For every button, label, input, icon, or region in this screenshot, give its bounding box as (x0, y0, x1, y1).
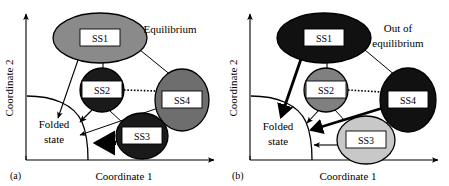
panel-label-b: (b) (232, 170, 244, 182)
folded-state-label-line2: state (44, 133, 64, 145)
x-axis-label: Coordinate 1 (95, 170, 152, 182)
panel-a: SS1 SS2 SS3 SS4 Equilibri (0, 0, 225, 186)
edge-ss2-to-folded-state (307, 110, 319, 123)
node-ss4[interactable]: SS4 (380, 68, 436, 132)
y-axis-label: Coordinate 2 (3, 59, 15, 116)
panel-a-canvas: SS1 SS2 SS3 SS4 Equilibri (0, 0, 225, 186)
folded-state-label-line1: Folded (263, 120, 294, 132)
edge-ss1-to-ss4 (365, 50, 396, 76)
node-ss4[interactable]: SS4 (155, 69, 209, 131)
panel-label-a: (a) (10, 170, 21, 182)
node-ss1[interactable]: SS1 (53, 13, 147, 63)
edge-ss2-to-ss3 (110, 111, 122, 122)
edge-ss2-to-ss4-dotted (348, 90, 382, 92)
y-axis-label: Coordinate 2 (227, 59, 239, 116)
node-ss1[interactable]: SS1 (277, 13, 371, 63)
panel-b: SS1 SS2 SS3 SS4 Out of equilibrium F (224, 0, 449, 186)
node-ss1-label: SS1 (92, 33, 108, 44)
node-ss2[interactable]: SS2 (304, 68, 348, 112)
folded-state-label-line2: state (268, 135, 288, 147)
node-ss2-label: SS2 (94, 85, 110, 96)
folded-state-label-line1: Folded (39, 118, 70, 130)
node-ss1-label: SS1 (316, 33, 332, 44)
annotation-out-of-equilibrium-line1: Out of (384, 22, 413, 34)
edge-ss2-to-ss4-dotted (124, 90, 157, 91)
node-ss3-label: SS3 (134, 131, 150, 142)
node-ss3[interactable]: SS3 (337, 116, 395, 164)
edge-ss1-to-folded-state (58, 60, 78, 118)
edge-ss1-to-folded-state-arrow (281, 59, 301, 117)
annotation-equilibrium: Equilibrium (143, 23, 197, 35)
panel-b-canvas: SS1 SS2 SS3 SS4 Out of equilibrium F (224, 0, 449, 186)
node-ss3-label: SS3 (358, 135, 374, 146)
node-ss3[interactable]: SS3 (116, 113, 168, 159)
edge-ss1-to-folded-state (281, 59, 301, 117)
edge-ss2-to-folded-state (80, 110, 92, 122)
figure-root: SS1 SS2 SS3 SS4 Equilibri (0, 0, 449, 186)
node-ss2-label: SS2 (318, 85, 334, 96)
edge-ss1-to-ss4 (140, 50, 172, 76)
node-ss2[interactable]: SS2 (80, 68, 124, 112)
x-axis-label: Coordinate 1 (319, 170, 376, 182)
node-ss4-label: SS4 (174, 95, 190, 106)
node-ss4-label: SS4 (400, 95, 416, 106)
annotation-out-of-equilibrium-line2: equilibrium (372, 37, 424, 49)
